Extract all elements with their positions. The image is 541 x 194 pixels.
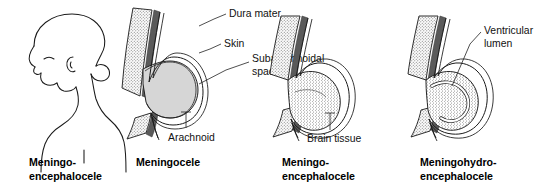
- label-ventricular-lumen-line1: Ventricular: [484, 25, 534, 36]
- caption-panel-4-line-2: encephalocele: [420, 170, 493, 182]
- label-brain-tissue: Brain tissue: [307, 133, 362, 144]
- label-dura-mater: Dura mater: [229, 8, 282, 19]
- encephalocele-figure: Dura mater Skin Subarachnoidal space Ara…: [0, 0, 541, 194]
- caption-panel-1-line-1: Meningo-: [29, 156, 77, 168]
- label-skin: Skin: [224, 38, 244, 49]
- caption-panel-4-line-1: Meningohydro-: [420, 156, 497, 168]
- label-ventricular-lumen-line2: lumen: [484, 38, 513, 49]
- caption-panel-1-line-2: encephalocele: [29, 170, 102, 182]
- csf-sac: [143, 61, 198, 118]
- label-arachnoid: Arachnoid: [168, 132, 215, 143]
- caption-panel-3-line-2: encephalocele: [282, 170, 355, 182]
- caption-panel-2-line-1: Meningocele: [136, 156, 200, 168]
- figure-canvas: Dura mater Skin Subarachnoidal space Ara…: [0, 0, 541, 194]
- caption-panel-3-line-1: Meningo-: [282, 156, 330, 168]
